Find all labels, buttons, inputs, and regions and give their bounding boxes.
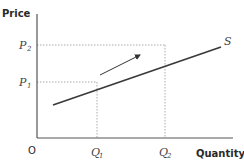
svg-text:P: P — [18, 39, 27, 52]
supply-curve — [53, 47, 221, 105]
guide-lines — [37, 45, 165, 138]
supply-diagram: Price Quantity O S P 2 P 1 Q 1 Q 2 — [0, 0, 244, 165]
svg-text:P: P — [18, 76, 27, 89]
movement-arrow-icon — [100, 55, 140, 75]
svg-text:1: 1 — [99, 152, 103, 160]
q2-label: Q 2 — [159, 146, 172, 160]
x-axis-label: Quantity — [196, 148, 244, 159]
y-axis-label: Price — [2, 8, 31, 19]
p1-label: P 1 — [18, 76, 31, 90]
origin-label: O — [28, 145, 36, 156]
svg-text:2: 2 — [26, 45, 32, 53]
p2-label: P 2 — [18, 39, 32, 53]
curve-label: S — [224, 35, 232, 48]
q1-label: Q 1 — [91, 146, 103, 160]
svg-text:2: 2 — [166, 152, 172, 160]
svg-text:1: 1 — [27, 82, 31, 90]
